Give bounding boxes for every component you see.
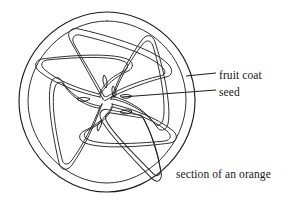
orange-diagram-svg <box>0 0 298 212</box>
fruit-coat-inner-circle <box>28 21 186 183</box>
orange-segment-5 <box>49 77 102 169</box>
label-seed: seed <box>219 86 240 98</box>
leader-line-seed <box>122 90 216 97</box>
orange-section-figure: fruit coat seed section of an orange <box>0 0 298 212</box>
segment-4-membrane <box>105 105 162 184</box>
segment-5-membrane <box>53 82 100 164</box>
segment-1-membrane <box>73 35 165 97</box>
figure-caption: section of an orange <box>176 168 271 180</box>
seed-group <box>77 75 132 131</box>
label-fruit-coat: fruit coat <box>219 69 262 81</box>
